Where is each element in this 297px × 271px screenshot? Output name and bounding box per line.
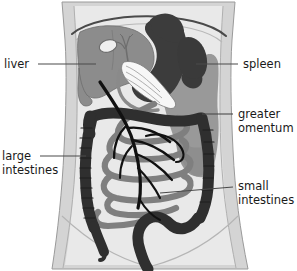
label-large-intestines-line1: large	[2, 149, 31, 163]
label-small-intestines-line2: intestines	[238, 193, 294, 207]
label-liver: liver	[4, 58, 29, 72]
label-small-intestines: smallintestines	[238, 180, 294, 207]
anatomy-figure: liver largeintestines spleen greateromen…	[0, 0, 297, 271]
abdominal-viscera-illustration	[0, 0, 297, 271]
label-small-intestines-line1: small	[238, 179, 269, 193]
label-spleen: spleen	[243, 58, 281, 72]
label-greater-omentum-line1: greater	[238, 107, 280, 121]
label-greater-omentum-line2: omentum	[238, 121, 294, 135]
label-large-intestines-line2: intestines	[2, 163, 58, 177]
label-large-intestines: largeintestines	[2, 150, 58, 177]
hepatic-flexure	[89, 116, 91, 134]
label-greater-omentum: greateromentum	[238, 108, 294, 135]
